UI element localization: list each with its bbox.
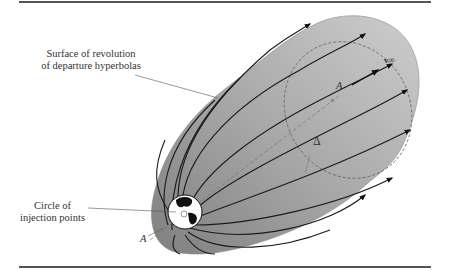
delta-label: Δ <box>313 135 321 147</box>
surface-label-line1: Surface of revolution <box>36 48 146 60</box>
surface-label: Surface of revolution of departure hyper… <box>36 48 146 72</box>
hyperbola-surface-diagram: × <box>0 0 450 270</box>
surface-leader <box>135 75 218 98</box>
point-a-top: A <box>336 80 342 92</box>
circle-label-line1: Circle of <box>15 200 90 212</box>
circle-label-line2: injection points <box>15 212 90 224</box>
point-a-bottom: A <box>140 233 146 245</box>
v-infinity-label: v∞ <box>384 54 395 66</box>
surface-label-line2: of departure hyperbolas <box>36 60 146 72</box>
circle-label: Circle of injection points <box>15 200 90 224</box>
axis-cross: × <box>330 96 335 105</box>
